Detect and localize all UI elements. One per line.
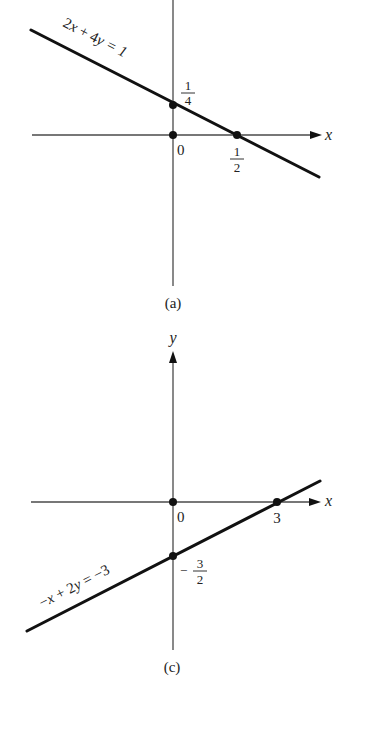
y-intercept-label-a: 1 4 (181, 78, 195, 108)
panel-a: x 2x + 4y = 1 0 1 4 1 2 (a) (31, 0, 332, 312)
svg-text:2: 2 (234, 160, 241, 175)
y-axis-label-c: y (167, 329, 177, 347)
svg-text:1: 1 (185, 78, 192, 93)
y-axis-arrow-icon (169, 351, 177, 363)
caption-a: (a) (165, 295, 182, 312)
origin-point-a (169, 131, 177, 139)
x-intercept-label-c: 3 (273, 510, 281, 526)
x-axis-arrow-icon (310, 131, 322, 139)
origin-label-a: 0 (177, 142, 185, 158)
linear-equations-figure: x 2x + 4y = 1 0 1 4 1 2 (a) y (0, 0, 366, 739)
svg-text:2: 2 (197, 572, 204, 587)
y-intercept-point-c (169, 552, 177, 560)
x-intercept-label-a: 1 2 (230, 144, 244, 175)
svg-text:4: 4 (185, 93, 192, 108)
equation-label-a: 2x + 4y = 1 (61, 14, 130, 60)
x-axis-label-a: x (324, 126, 332, 143)
svg-text:−: − (180, 563, 187, 578)
origin-point-c (169, 498, 177, 506)
x-axis-arrow-icon (309, 498, 321, 506)
origin-label-c: 0 (177, 509, 185, 525)
y-intercept-label-c: − 3 2 (180, 556, 207, 587)
panel-c: y x −x + 2y = −3 0 3 − 3 2 (c) (27, 329, 332, 676)
caption-c: (c) (164, 659, 181, 676)
equation-label-c: −x + 2y = −3 (36, 561, 112, 610)
x-intercept-point-c (273, 498, 281, 506)
svg-text:1: 1 (234, 144, 241, 159)
x-intercept-point-a (233, 131, 241, 139)
x-axis-label-c: x (324, 492, 332, 509)
svg-text:3: 3 (197, 556, 204, 571)
y-intercept-point-a (169, 101, 177, 109)
